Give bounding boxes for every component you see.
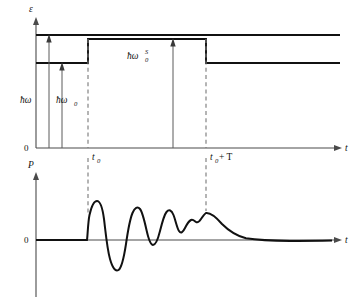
hbar-omega-label: ħω xyxy=(20,95,32,105)
svg-text:ħω: ħω xyxy=(127,51,139,61)
tick-label-t0-plus-T: t 0 + T xyxy=(210,152,233,164)
hbar-omega-0-label: ħω 0 xyxy=(56,95,78,107)
polarization-panel: P t 0 xyxy=(24,158,348,297)
polarization-x-axis-label: t xyxy=(345,235,348,245)
svg-text:+ T: + T xyxy=(219,152,233,162)
hbar-omega-0-arrow xyxy=(59,62,64,148)
energy-panel: ε t 0 xyxy=(20,4,348,164)
svg-text:0: 0 xyxy=(145,56,149,63)
transition-energy-level-line xyxy=(36,39,340,63)
energy-y-axis xyxy=(33,17,39,148)
energy-y-axis-label: ε xyxy=(29,4,33,14)
polarization-curve xyxy=(36,201,332,271)
svg-text:t: t xyxy=(210,152,213,162)
svg-text:0: 0 xyxy=(97,157,101,164)
hbar-omega-0-shifted-arrow xyxy=(170,38,175,148)
tick-label-t0: t 0 xyxy=(92,152,101,164)
svg-text:0: 0 xyxy=(74,100,78,107)
hbar-omega-0-shifted-label: ħω 0 S xyxy=(127,48,149,63)
energy-x-axis xyxy=(36,145,342,151)
polarization-origin-label: 0 xyxy=(24,235,29,245)
energy-origin-label: 0 xyxy=(24,143,29,153)
svg-text:S: S xyxy=(145,48,149,55)
polarization-y-axis xyxy=(33,172,39,297)
svg-text:ħω: ħω xyxy=(56,95,68,105)
figure-root: ε t 0 xyxy=(0,0,357,302)
svg-text:ħω: ħω xyxy=(20,95,32,105)
energy-x-axis-label: t xyxy=(345,143,348,153)
polarization-y-axis-label: P xyxy=(27,160,34,170)
physics-figure-svg: ε t 0 xyxy=(0,0,357,302)
svg-text:t: t xyxy=(92,152,95,162)
hbar-omega-arrow xyxy=(46,34,51,148)
